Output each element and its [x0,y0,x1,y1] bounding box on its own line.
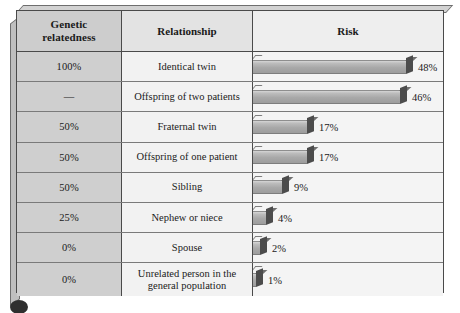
cell-relationship: Offspring of two patients [122,82,253,111]
cell-relationship: Unrelated person in the general populati… [122,263,253,296]
risk-bar-label: 48% [418,61,437,72]
table-row: 50% Offspring of one patient 17% [17,143,443,173]
cell-relationship: Spouse [122,233,253,262]
risk-bar-label: 17% [319,121,338,132]
bar-wrapper: 17% [253,112,443,141]
cell-genetic-relatedness: — [17,82,122,111]
risk-bar-label: 4% [278,212,292,223]
bar-wrapper: 48% [253,52,443,81]
risk-bar-label: 9% [294,182,308,193]
table-row: 50% Sibling 9% [17,173,443,203]
table-row: 100% Identical twin 48% [17,52,443,82]
cell-risk: 4% [253,203,443,232]
cell-risk: 46% [253,82,443,111]
risk-bar [253,90,400,104]
table-grid: Genetic relatedness Relationship Risk 10… [17,11,443,292]
table-row: 25% Nephew or niece 4% [17,203,443,233]
cell-relationship: Offspring of one patient [122,143,253,172]
cell-relationship: Fraternal twin [122,112,253,141]
cell-genetic-relatedness: 50% [17,173,122,202]
risk-bar [253,273,256,287]
column-header-genetic-line2: relatedness [42,31,95,43]
bar-wrapper: 46% [253,82,443,111]
table-row: 0% Spouse 2% [17,233,443,263]
cell-genetic-relatedness: 100% [17,52,122,81]
cell-risk: 17% [253,112,443,141]
table-row: 0% Unrelated person in the general popul… [17,263,443,296]
table-row: 50% Fraternal twin 17% [17,112,443,142]
column-header-relationship: Relationship [122,11,253,51]
cell-genetic-relatedness: 25% [17,203,122,232]
cell-risk: 9% [253,173,443,202]
cell-genetic-relatedness: 50% [17,112,122,141]
bar-wrapper: 1% [253,263,443,296]
risk-bar-label: 2% [272,242,286,253]
risk-bar-label: 1% [268,274,282,285]
cell-genetic-relatedness: 50% [17,143,122,172]
bar-wrapper: 17% [253,143,443,172]
cell-relationship-line2: general population [148,280,226,291]
figure-root: Genetic relatedness Relationship Risk 10… [0,0,460,313]
cell-relationship: Identical twin [122,52,253,81]
risk-bar-label: 46% [412,91,431,102]
cell-genetic-relatedness: 0% [17,233,122,262]
risk-bar [253,211,266,225]
risk-bar [253,150,307,164]
cell-genetic-relatedness: 0% [17,263,122,296]
cell-relationship: Sibling [122,173,253,202]
cell-risk: 1% [253,263,443,296]
risk-bar [253,241,260,255]
table-header-row: Genetic relatedness Relationship Risk [17,11,443,52]
cell-risk: 17% [253,143,443,172]
table-row: — Offspring of two patients 46% [17,82,443,112]
column-header-risk: Risk [253,11,443,51]
cell-risk: 2% [253,233,443,262]
bar-wrapper: 2% [253,233,443,262]
cell-risk: 48% [253,52,443,81]
cell-relationship-line1: Unrelated person in the [138,268,236,279]
cell-relationship: Nephew or niece [122,203,253,232]
risk-table: Genetic relatedness Relationship Risk 10… [16,10,444,293]
risk-bar [253,120,307,134]
column-header-genetic-relatedness: Genetic relatedness [17,11,122,51]
bar-wrapper: 9% [253,173,443,202]
column-header-genetic-line1: Genetic [51,18,88,30]
bar-wrapper: 4% [253,203,443,232]
risk-bar [253,60,406,74]
risk-bar-label: 17% [319,152,338,163]
page-corner-marker-icon [10,300,28,313]
risk-bar [253,180,282,194]
